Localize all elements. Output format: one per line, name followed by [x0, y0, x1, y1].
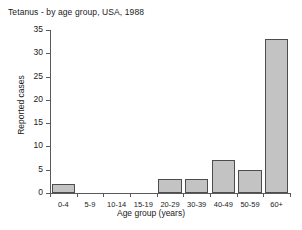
y-tick-label: 30	[34, 48, 43, 57]
bar	[158, 179, 182, 193]
x-axis-label: Age group (years)	[0, 208, 302, 218]
x-tick	[210, 193, 211, 197]
bar	[185, 179, 209, 193]
y-tick-label: 5	[38, 165, 43, 174]
x-axis-spine	[50, 193, 290, 194]
y-tick-label: 25	[34, 72, 43, 81]
x-tick	[263, 193, 264, 197]
x-tick	[183, 193, 184, 197]
chart-title: Tetanus - by age group, USA, 1988	[8, 7, 144, 17]
plot-area: 05101520253035 0-45-910-1415-1920-2930-3…	[50, 30, 290, 193]
y-tick-label: 20	[34, 95, 43, 104]
y-tick: 20	[46, 100, 50, 101]
y-tick-label: 15	[34, 118, 43, 127]
y-tick: 5	[46, 170, 50, 171]
chart-figure: Tetanus - by age group, USA, 1988 Report…	[0, 0, 302, 230]
x-tick	[77, 193, 78, 197]
x-tick	[130, 193, 131, 197]
x-tick	[290, 193, 291, 197]
bar	[265, 39, 289, 193]
y-tick-label: 35	[34, 25, 43, 34]
bar	[212, 160, 236, 193]
y-tick-label: 10	[34, 141, 43, 150]
x-tick	[50, 193, 51, 197]
x-tick	[237, 193, 238, 197]
x-tick	[103, 193, 104, 197]
x-tick	[157, 193, 158, 197]
bar	[238, 170, 262, 193]
y-tick-label: 0	[38, 188, 43, 197]
y-axis-label: Reported cases	[16, 60, 26, 150]
y-tick: 15	[46, 123, 50, 124]
y-tick: 25	[46, 77, 50, 78]
y-tick: 35	[46, 30, 50, 31]
y-axis-spine	[50, 30, 51, 193]
bar	[52, 184, 76, 193]
y-tick: 10	[46, 146, 50, 147]
y-tick: 30	[46, 53, 50, 54]
